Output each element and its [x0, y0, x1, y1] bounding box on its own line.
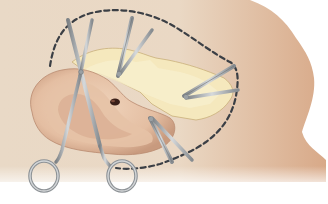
ear-canal — [110, 99, 120, 106]
surgical-illustration — [0, 0, 328, 204]
illustration-svg — [0, 0, 328, 204]
